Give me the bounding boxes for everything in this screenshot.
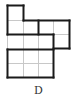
option-label: D [0, 85, 77, 97]
